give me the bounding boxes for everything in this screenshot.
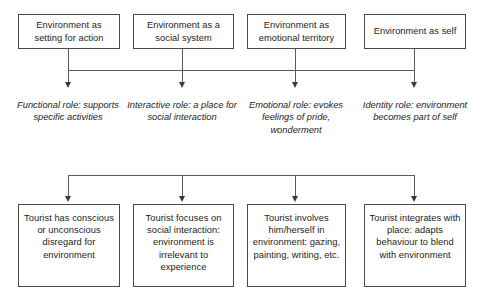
role-label-emotional: Emotional role: evokes feelings of pride…	[241, 99, 351, 136]
connector-stem-col2-upper	[182, 49, 183, 70]
connector-stem-col1-upper	[68, 49, 69, 70]
arrow-down-icon-col4-lower	[411, 196, 417, 202]
top-box-label: Environment as emotional territory	[251, 19, 342, 43]
connector-drop-col4-lower	[414, 175, 415, 196]
bottom-box-disregard[interactable]: Tourist has conscious or unconscious dis…	[18, 204, 120, 287]
bottom-box-label: Tourist involves him/herself in environm…	[251, 212, 342, 261]
arrow-down-icon-col2-upper	[179, 82, 185, 88]
bottom-box-social-focus[interactable]: Tourist focuses on social interaction: e…	[133, 204, 234, 287]
bottom-box-involvement[interactable]: Tourist involves him/herself in environm…	[247, 204, 346, 287]
role-label-text: Identity role: environment becomes part …	[363, 100, 467, 122]
connector-stem-col4-upper	[414, 49, 415, 70]
arrow-down-icon-col1-upper	[65, 82, 71, 88]
role-label-functional: Functional role: supports specific activ…	[12, 99, 124, 124]
top-box-self[interactable]: Environment as self	[364, 14, 466, 49]
bottom-box-label: Tourist focuses on social interaction: e…	[137, 212, 230, 273]
arrow-down-icon-col3-lower	[292, 196, 298, 202]
role-label-identity: Identity role: environment becomes part …	[362, 99, 468, 124]
top-box-label: Environment as setting for action	[22, 19, 116, 43]
bottom-box-label: Tourist has conscious or unconscious dis…	[22, 212, 116, 261]
role-label-text: Functional role: supports specific activ…	[17, 100, 119, 122]
diagram-canvas: Environment as setting for action Enviro…	[0, 0, 486, 306]
role-label-interactive: Interactive role: a place for social int…	[126, 99, 238, 124]
bottom-box-integration[interactable]: Tourist integrates with place: adapts be…	[364, 204, 466, 287]
connector-drop-col1-lower	[68, 175, 69, 196]
connector-stem-col3-upper	[295, 49, 296, 70]
connector-drop-col3-lower	[295, 175, 296, 196]
top-box-emotional-territory[interactable]: Environment as emotional territory	[247, 14, 346, 49]
arrow-down-icon-col3-upper	[292, 82, 298, 88]
top-box-social-system[interactable]: Environment as a social system	[133, 14, 234, 49]
connector-bus-upper	[68, 70, 415, 71]
bottom-box-label: Tourist integrates with place: adapts be…	[368, 212, 462, 261]
role-label-text: Interactive role: a place for social int…	[127, 100, 237, 122]
top-box-setting-for-action[interactable]: Environment as setting for action	[18, 14, 120, 49]
arrow-down-icon-col1-lower	[65, 196, 71, 202]
top-box-label: Environment as a social system	[137, 19, 230, 43]
arrow-down-icon-col4-upper	[411, 82, 417, 88]
top-box-label: Environment as self	[374, 25, 457, 37]
role-label-text: Emotional role: evokes feelings of pride…	[249, 100, 343, 135]
connector-drop-col2-lower	[182, 175, 183, 196]
connector-bus-lower	[68, 175, 415, 176]
arrow-down-icon-col2-lower	[179, 196, 185, 202]
